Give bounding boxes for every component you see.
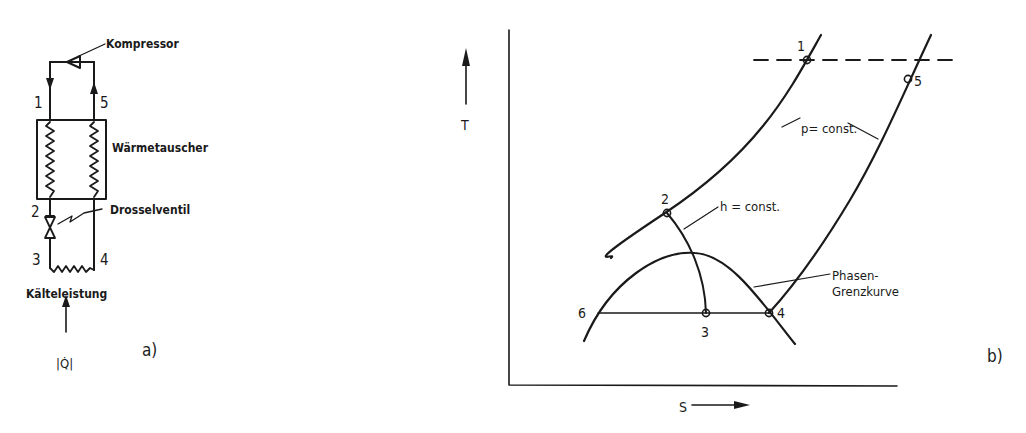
ts-point-label-5: 5 bbox=[914, 73, 922, 89]
label-heat-flow: |Q̇| bbox=[56, 356, 73, 371]
point-label-5: 5 bbox=[100, 94, 109, 112]
arrow-right-icon bbox=[734, 401, 750, 409]
ts-point-label-6: 6 bbox=[578, 305, 586, 321]
arrow-down-icon bbox=[46, 78, 54, 90]
throttle-leader bbox=[58, 209, 102, 224]
caption-b: b) bbox=[987, 346, 1003, 366]
ts-point-label-1: 1 bbox=[797, 38, 805, 54]
ts-point-label-4: 4 bbox=[777, 305, 785, 321]
coil-right bbox=[90, 122, 98, 197]
isobar-high bbox=[606, 35, 821, 258]
arrow-up-icon bbox=[90, 82, 98, 94]
point-label-1: 1 bbox=[34, 94, 43, 112]
panel-a-schematic: Kompressor Wärmetauscher Drosselventil K… bbox=[26, 37, 209, 371]
evaporator-coil bbox=[50, 266, 94, 272]
axis-label-t: T bbox=[460, 117, 469, 133]
phase-boundary-curve bbox=[584, 253, 795, 344]
arrow-up-icon bbox=[462, 48, 470, 66]
ts-point-label-3: 3 bbox=[701, 324, 709, 340]
label-waermetauscher: Wärmetauscher bbox=[112, 141, 209, 155]
label-isenthalp: h = const. bbox=[720, 199, 780, 214]
label-phase-boundary-1: Phasen- bbox=[832, 268, 879, 283]
axis-label-s: S bbox=[679, 399, 687, 415]
label-drosselventil: Drosselventil bbox=[110, 203, 190, 217]
point-label-2: 2 bbox=[31, 203, 40, 221]
isenthalp-leader bbox=[684, 207, 718, 229]
point-label-4: 4 bbox=[100, 251, 109, 269]
label-kompressor: Kompressor bbox=[106, 37, 179, 51]
panel-b-ts-diagram: T S 1 5 2 3 4 6 p= bbox=[460, 30, 1003, 415]
ts-point-label-2: 2 bbox=[661, 191, 669, 207]
coil-left bbox=[46, 122, 54, 197]
refrigeration-cycle-figure: Kompressor Wärmetauscher Drosselventil K… bbox=[0, 0, 1026, 433]
label-phase-boundary-2: Grenzkurve bbox=[832, 284, 899, 299]
label-kaelteleistung: Kälteleistung bbox=[26, 287, 107, 301]
compressor-leader bbox=[79, 44, 105, 56]
throttle-valve-icon bbox=[45, 217, 55, 238]
isobar-leader-1 bbox=[782, 118, 800, 127]
label-isobar: p= const. bbox=[801, 121, 857, 136]
caption-a: a) bbox=[142, 340, 157, 360]
point-label-3: 3 bbox=[32, 251, 41, 269]
